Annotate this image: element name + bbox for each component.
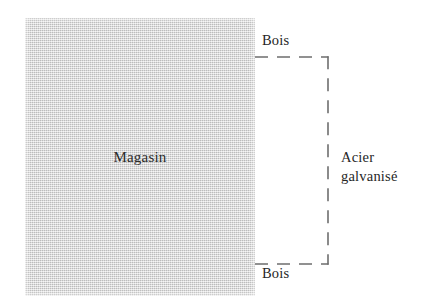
building-block-magasin: Magasin [25, 18, 255, 296]
label-bois-bottom: Bois [262, 264, 289, 283]
building-label: Magasin [25, 18, 255, 296]
label-bois-top: Bois [262, 31, 289, 50]
label-acier-galvanise: Acier galvanisé [341, 148, 398, 186]
label-acier-line-1: Acier [341, 148, 398, 167]
construction-diagram: Magasin Bois Bois Acier galvanisé [0, 0, 434, 307]
label-acier-line-2: galvanisé [341, 167, 398, 186]
